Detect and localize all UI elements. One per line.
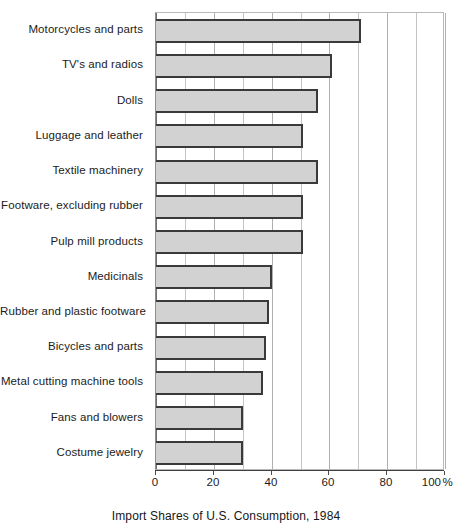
tick-mark-80 <box>386 471 387 475</box>
category-label: Costume jewelry <box>0 446 143 459</box>
bar-row <box>156 124 303 148</box>
plot-area <box>155 12 444 470</box>
bar-row <box>156 441 243 465</box>
percent-sign: % <box>441 476 453 488</box>
bar <box>156 19 361 43</box>
category-label: Footware, excluding rubber <box>0 199 143 212</box>
bar-row <box>156 195 303 219</box>
tick-label-80: 80 <box>380 476 393 489</box>
bar <box>156 265 272 289</box>
bar-row <box>156 371 263 395</box>
tick-label-100: 100% <box>422 476 453 489</box>
bar <box>156 230 303 254</box>
tick-mark-100 <box>444 471 445 475</box>
bar-row <box>156 54 332 78</box>
category-label-column: Motorcycles and partsTV's and radiosDoll… <box>0 12 149 470</box>
tick-mark-40 <box>271 471 272 475</box>
category-label: Rubber and plastic footware <box>0 305 143 318</box>
bar-row <box>156 336 266 360</box>
tick-label-0: 0 <box>152 476 158 489</box>
bar-series <box>156 13 443 469</box>
x-axis-ticks: 020406080100% <box>155 471 444 491</box>
bar <box>156 336 266 360</box>
tick-label-60: 60 <box>322 476 335 489</box>
category-label: Motorcycles and parts <box>0 23 143 36</box>
bar <box>156 89 318 113</box>
bar-row <box>156 265 272 289</box>
bar-row <box>156 89 318 113</box>
bar-row <box>156 300 269 324</box>
category-label: Textile machinery <box>0 164 143 177</box>
category-label: Bicycles and parts <box>0 340 143 353</box>
bar <box>156 300 269 324</box>
bar-row <box>156 406 243 430</box>
bar <box>156 371 263 395</box>
category-label: Luggage and leather <box>0 129 143 142</box>
bar <box>156 124 303 148</box>
category-label: Metal cutting machine tools <box>0 375 143 388</box>
category-label: TV's and radios <box>0 58 143 71</box>
bar <box>156 406 243 430</box>
category-label: Dolls <box>0 94 143 107</box>
bar-row <box>156 160 318 184</box>
tick-mark-20 <box>213 471 214 475</box>
bar <box>156 160 318 184</box>
category-label: Medicinals <box>0 270 143 283</box>
bar <box>156 441 243 465</box>
bar-row <box>156 230 303 254</box>
bar <box>156 54 332 78</box>
category-label: Fans and blowers <box>0 411 143 424</box>
bar-row <box>156 19 361 43</box>
tick-label-20: 20 <box>207 476 220 489</box>
tick-label-40: 40 <box>265 476 278 489</box>
tick-mark-0 <box>155 471 156 475</box>
tick-mark-60 <box>328 471 329 475</box>
bar <box>156 195 303 219</box>
bar-chart: Motorcycles and partsTV's and radiosDoll… <box>0 0 475 532</box>
category-label: Pulp mill products <box>0 235 143 248</box>
gridline-100 <box>445 13 446 469</box>
chart-caption: Import Shares of U.S. Consumption, 1984 <box>0 509 452 524</box>
